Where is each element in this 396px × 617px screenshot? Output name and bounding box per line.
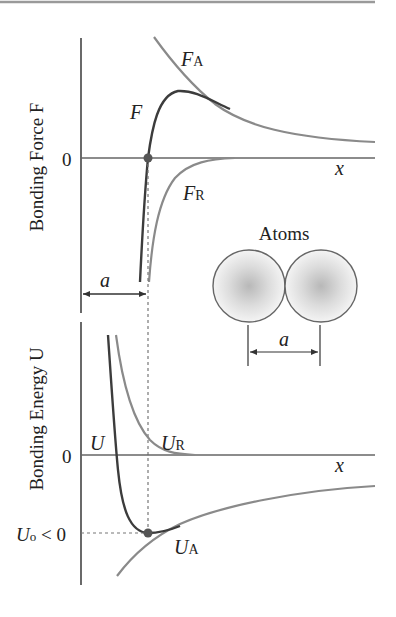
energy-repulsion-curve: [116, 335, 195, 455]
energy-repulsion-label: UR: [161, 432, 185, 454]
energy-zero-label: 0: [62, 446, 72, 467]
atoms-inset: Atoms a: [213, 223, 357, 366]
force-equilibrium-point: [144, 154, 153, 163]
energy-attraction-curve: [117, 486, 375, 576]
force-axis-label: Bonding Force F: [26, 103, 47, 232]
energy-x-label: x: [334, 454, 344, 476]
energy-min-label: Uo < 0: [16, 524, 66, 545]
force-attraction-label: FA: [180, 48, 204, 70]
atom-spacing-label: a: [279, 328, 289, 350]
force-zero-label: 0: [62, 149, 72, 170]
energy-minimum-point: [144, 529, 153, 538]
energy-axis-label: Bonding Energy U: [26, 347, 47, 490]
atom-right: [285, 250, 357, 322]
energy-attraction-label: UA: [174, 536, 199, 558]
atom-left: [213, 250, 285, 322]
bonding-diagram: Bonding Force F 0 x F FA FR a Atoms a Bo…: [0, 0, 396, 617]
force-repulsion-label: FR: [182, 182, 205, 204]
atoms-title: Atoms: [259, 223, 310, 244]
energy-net-label: U: [90, 432, 106, 454]
force-net-label: F: [129, 101, 143, 123]
force-x-label: x: [334, 157, 344, 179]
force-spacing-label: a: [100, 269, 110, 291]
energy-panel: Bonding Energy U 0 x Uo < 0 U UR UA: [16, 322, 375, 585]
